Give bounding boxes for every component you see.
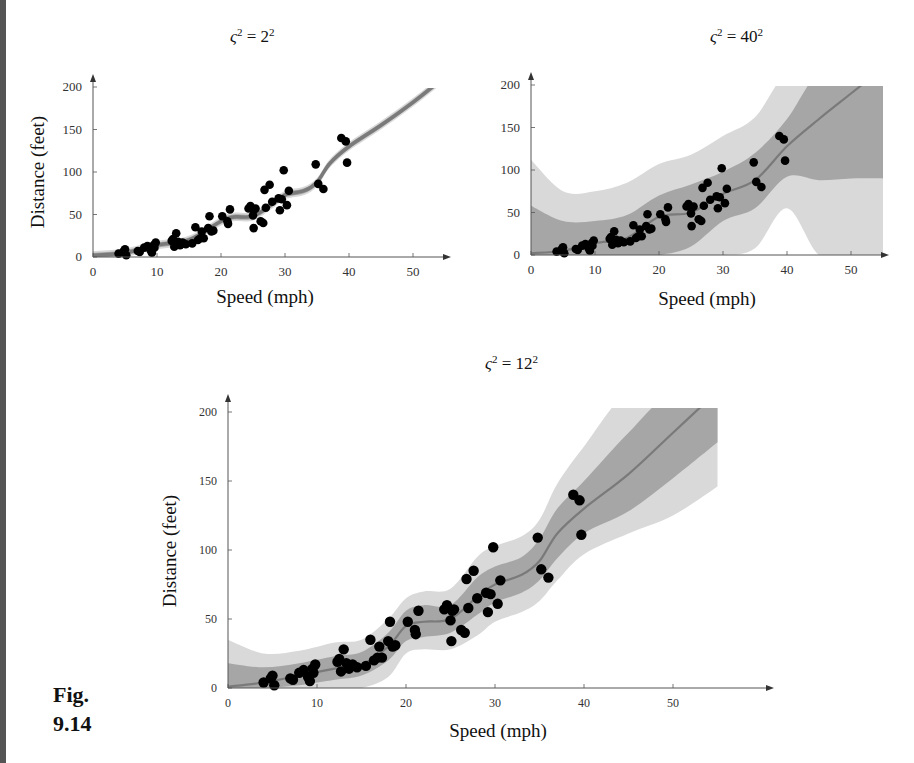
figure-label-line1: Fig.	[53, 680, 92, 709]
data-point	[311, 160, 320, 169]
x-tick-label: 30	[489, 696, 501, 710]
data-point	[463, 603, 473, 613]
data-point	[714, 204, 723, 213]
x-tick-label: 20	[653, 262, 666, 277]
data-point	[543, 572, 553, 582]
y-tick-label: 50	[69, 207, 82, 222]
data-point	[265, 180, 274, 189]
data-point	[267, 670, 277, 680]
x-axis-arrow-icon	[766, 685, 774, 691]
x-tick-label: 0	[225, 696, 231, 710]
chart-title: ς2 = 22	[230, 26, 275, 46]
data-point	[780, 135, 789, 144]
y-tick-label: 0	[514, 247, 521, 262]
y-tick-label: 100	[199, 543, 217, 557]
data-point	[199, 234, 208, 243]
y-tick-label: 150	[63, 122, 83, 137]
data-point	[403, 617, 413, 627]
y-axis-arrow-icon	[225, 394, 231, 402]
data-point	[483, 607, 493, 617]
x-tick-label: 30	[279, 264, 292, 279]
data-point	[390, 640, 400, 650]
figure-number-label: Fig. 9.14	[53, 680, 92, 738]
y-tick-label: 200	[199, 405, 217, 419]
data-point	[449, 604, 459, 614]
figure-canvas: 01020304050050100150200 ς2 = 22 Speed (m…	[0, 0, 914, 763]
x-tick-label: 40	[343, 264, 356, 279]
data-point	[485, 589, 495, 599]
data-point	[446, 636, 456, 646]
y-axis-label: Distance (feet)	[159, 495, 181, 607]
y-tick-label: 100	[501, 162, 521, 177]
data-point	[151, 238, 160, 247]
y-axis-label: Distance (feet)	[27, 116, 49, 228]
data-point	[279, 166, 288, 175]
data-point	[226, 205, 235, 214]
data-point	[343, 158, 352, 167]
inner-credible-band	[228, 388, 718, 688]
data-point	[352, 662, 362, 672]
outer-credible-band	[93, 73, 445, 260]
data-point	[445, 615, 455, 625]
x-axis-label: Speed (mph)	[449, 720, 547, 742]
data-point	[749, 158, 758, 167]
x-axis-label: Speed (mph)	[658, 288, 756, 310]
x-tick-label: 20	[215, 264, 228, 279]
uncertainty-bands	[228, 387, 718, 689]
data-point	[610, 227, 619, 236]
data-point	[251, 204, 260, 213]
x-tick-label: 40	[781, 262, 794, 277]
y-tick-label: 50	[205, 612, 217, 626]
data-point	[697, 217, 706, 226]
data-point	[262, 203, 271, 212]
data-point	[689, 202, 698, 211]
chart-panel-s2-40: 01020304050050100150200 ς2 = 402 Speed (…	[501, 26, 890, 310]
data-point	[643, 210, 652, 219]
data-point	[276, 206, 285, 215]
data-point	[342, 137, 351, 146]
data-point	[460, 628, 470, 638]
data-point	[662, 218, 671, 227]
y-tick-label: 200	[501, 77, 521, 92]
y-tick-label: 0	[211, 681, 217, 695]
x-axis-arrow-icon	[881, 252, 889, 258]
data-point	[533, 532, 543, 542]
data-point	[224, 220, 233, 229]
data-point	[385, 617, 395, 627]
x-axis-label: Speed (mph)	[216, 286, 314, 308]
x-tick-label: 40	[578, 696, 590, 710]
y-tick-label: 50	[507, 205, 520, 220]
data-point	[781, 156, 790, 165]
data-point	[576, 530, 586, 540]
data-point	[664, 203, 673, 212]
data-point	[536, 564, 546, 574]
data-point	[703, 178, 712, 187]
data-point	[374, 641, 384, 651]
posterior-mean-line	[93, 77, 445, 256]
data-point	[637, 232, 646, 241]
data-point	[319, 185, 328, 194]
data-point	[717, 164, 726, 173]
y-tick-label: 150	[199, 474, 217, 488]
x-tick-label: 0	[90, 264, 97, 279]
data-point	[283, 201, 292, 210]
x-tick-label: 50	[845, 262, 858, 277]
y-axis-arrow-icon	[528, 72, 534, 80]
data-point	[259, 219, 268, 228]
x-tick-label: 30	[717, 262, 730, 277]
data-point	[472, 593, 482, 603]
data-point	[647, 224, 656, 233]
x-tick-label: 10	[151, 264, 164, 279]
data-point	[495, 575, 505, 585]
inner-credible-band	[93, 74, 445, 258]
data-point	[269, 680, 279, 690]
data-point	[122, 251, 131, 260]
chart-title: ς2 = 402	[710, 26, 763, 46]
y-tick-label: 150	[501, 120, 521, 135]
data-point	[468, 566, 478, 576]
x-axis-arrow-icon	[443, 254, 451, 260]
data-point	[172, 229, 181, 238]
data-point	[560, 249, 569, 258]
data-point	[589, 236, 598, 245]
data-point	[687, 222, 696, 231]
